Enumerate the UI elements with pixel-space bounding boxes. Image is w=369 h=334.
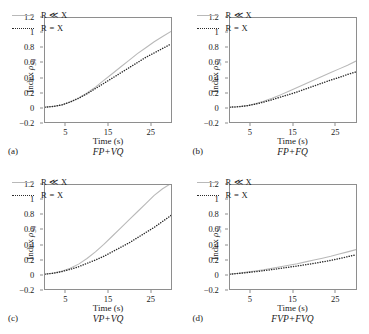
y-tick-mark [225, 77, 228, 78]
y-tick-mark [225, 214, 228, 215]
panel-tag: (c) [8, 313, 18, 323]
y-tick-label: 0.4 [208, 240, 218, 249]
x-tick-mark [108, 123, 109, 126]
legend: R ≪ X R = X [12, 8, 98, 34]
panel-tag: (d) [193, 313, 204, 323]
y-tick-mark [225, 92, 228, 93]
y-tick-label: 0.6 [24, 225, 34, 234]
y-tick-label: 0 [30, 271, 34, 280]
legend-entry-series-b: R = X [12, 21, 98, 34]
y-tick-mark [225, 290, 228, 291]
x-axis-label: Time (s) [44, 303, 172, 313]
y-tick-mark [225, 47, 228, 48]
legend-line-solid-icon [12, 11, 34, 18]
legend: R ≪ X R = X [197, 8, 283, 34]
legend-line-dotted-icon [12, 24, 34, 31]
x-tick-mark [335, 290, 336, 293]
y-tick-mark [40, 47, 43, 48]
y-tick-mark [40, 290, 43, 291]
legend-entry-series-b: R = X [197, 188, 283, 201]
legend-line-dotted-icon [197, 191, 219, 198]
chart-panel-d: Index ρ34 −0.200.20.40.60.811.2 R ≪ X R … [185, 167, 369, 334]
y-tick-label: 0 [214, 104, 218, 113]
curve-series-b [45, 215, 171, 274]
x-tick-mark [292, 290, 293, 293]
curve-series-a [230, 61, 356, 107]
legend-entry-series-a: R ≪ X [197, 175, 283, 188]
panel-caption: FP+VQ [44, 147, 172, 157]
legend-label-series-a: R ≪ X [226, 177, 253, 187]
x-axis-label: Time (s) [229, 136, 357, 146]
y-tick-mark [40, 229, 43, 230]
y-tick-mark [225, 123, 228, 124]
x-tick-mark [249, 123, 250, 126]
legend-line-solid-icon [197, 178, 219, 185]
y-tick-label: 0.2 [208, 255, 218, 264]
legend-label-series-b: R = X [41, 23, 63, 33]
y-tick-label: 0.4 [24, 240, 34, 249]
y-tick-label: 0.8 [208, 43, 218, 52]
x-tick-mark [65, 123, 66, 126]
x-axis-label: Time (s) [44, 136, 172, 146]
y-tick-mark [40, 259, 43, 260]
x-tick-mark [150, 123, 151, 126]
y-tick-mark [225, 259, 228, 260]
x-tick-mark [65, 290, 66, 293]
y-tick-label: −0.2 [19, 119, 34, 128]
legend: R ≪ X R = X [197, 175, 283, 201]
y-tick-label: −0.2 [204, 119, 219, 128]
y-tick-mark [225, 274, 228, 275]
legend: R ≪ X R = X [12, 175, 98, 201]
panel-tag: (b) [193, 146, 204, 156]
y-tick-label: 0.8 [24, 210, 34, 219]
x-tick-mark [108, 290, 109, 293]
y-tick-mark [40, 107, 43, 108]
legend-entry-series-b: R = X [197, 21, 283, 34]
y-tick-mark [40, 62, 43, 63]
chart-panel-b: Index ρ34 −0.200.20.40.60.811.2 R ≪ X R … [185, 0, 369, 167]
legend-entry-series-a: R ≪ X [197, 8, 283, 21]
legend-label-series-a: R ≪ X [41, 177, 68, 187]
y-tick-mark [40, 77, 43, 78]
y-tick-label: 0.4 [208, 73, 218, 82]
y-tick-label: 0.6 [24, 58, 34, 67]
legend-label-series-b: R = X [226, 23, 248, 33]
legend-line-solid-icon [12, 178, 34, 185]
y-tick-label: 0.2 [24, 255, 34, 264]
legend-entry-series-a: R ≪ X [12, 8, 98, 21]
y-tick-mark [225, 229, 228, 230]
figure-panel-grid: Index ρ34 −0.200.20.40.60.811.2 R ≪ X R … [0, 0, 369, 334]
y-tick-label: 0 [214, 271, 218, 280]
y-tick-mark [225, 62, 228, 63]
panel-caption: FVP+FVQ [229, 314, 357, 324]
panel-caption: FP+FQ [229, 147, 357, 157]
legend-line-solid-icon [197, 11, 219, 18]
y-tick-label: −0.2 [19, 286, 34, 295]
legend-label-series-a: R ≪ X [226, 10, 253, 20]
x-tick-mark [150, 290, 151, 293]
y-tick-mark [225, 244, 228, 245]
chart-panel-c: Index ρ34 −0.200.20.40.60.811.2 R ≪ X R … [0, 167, 185, 334]
y-tick-label: 0.6 [208, 225, 218, 234]
y-tick-label: 0.2 [24, 88, 34, 97]
x-axis-label: Time (s) [229, 303, 357, 313]
y-tick-label: 0.8 [208, 210, 218, 219]
y-tick-mark [40, 274, 43, 275]
y-tick-label: 0.6 [208, 58, 218, 67]
panel-tag: (a) [8, 146, 18, 156]
legend-label-series-b: R = X [41, 190, 63, 200]
y-tick-mark [40, 123, 43, 124]
curve-series-a [45, 31, 171, 107]
legend-entry-series-b: R = X [12, 188, 98, 201]
panel-caption: VP+VQ [44, 314, 172, 324]
y-tick-mark [40, 244, 43, 245]
legend-line-dotted-icon [12, 191, 34, 198]
y-tick-label: 0 [30, 104, 34, 113]
legend-label-series-a: R ≪ X [41, 10, 68, 20]
y-tick-mark [225, 107, 228, 108]
y-tick-label: 0.4 [24, 73, 34, 82]
chart-panel-a: Index ρ34 −0.200.20.40.60.811.2 R ≪ X R … [0, 0, 185, 167]
y-tick-mark [40, 92, 43, 93]
x-tick-mark [249, 290, 250, 293]
x-tick-mark [292, 123, 293, 126]
